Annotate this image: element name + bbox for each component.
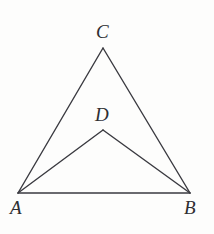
vertex-label-A: A: [10, 198, 22, 217]
vertex-label-D: D: [95, 105, 109, 124]
geometry-figure: ABCD: [0, 0, 214, 234]
segment-AD: [18, 130, 103, 193]
segment-AC: [18, 48, 103, 193]
segment-CB: [103, 48, 190, 193]
vertex-label-B: B: [184, 198, 196, 217]
segment-DB: [103, 130, 190, 193]
vertex-label-C: C: [96, 22, 109, 41]
